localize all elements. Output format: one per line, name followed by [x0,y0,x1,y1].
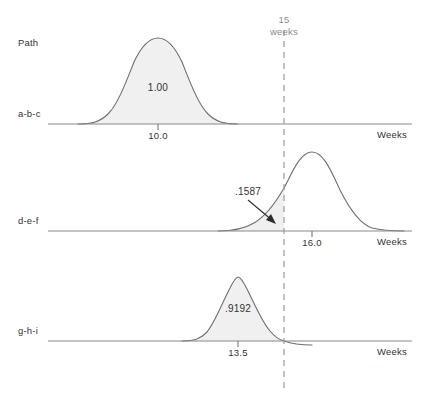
path-label-a-b-c: a-b-c [18,108,41,119]
axis-label-d-e-f: Weeks [377,236,407,247]
week-15-marker-unit: weeks [270,26,298,38]
path-label-g-h-i: g-h-i [18,325,38,336]
mean-tick-label-a-b-c: 10.0 [148,130,167,141]
mean-tick-label-g-h-i: 13.5 [228,347,247,358]
probability-label-a-b-c: 1.00 [148,82,168,93]
curve-fill-a-b-c [78,38,238,124]
axis-label-a-b-c: Weeks [377,129,407,140]
probability-label-d-e-f: .1587 [235,186,261,197]
mean-tick-label-d-e-f: 16.0 [302,237,321,248]
pert-probability-distributions-figure [0,0,425,400]
column-header-path: Path [18,37,38,48]
week-15-marker-value: 15 [270,14,298,26]
probability-label-g-h-i: .9192 [225,303,251,314]
path-label-d-e-f: d-e-f [18,215,39,226]
week-15-marker-label: 15 weeks [270,14,298,37]
axis-label-g-h-i: Weeks [377,346,407,357]
